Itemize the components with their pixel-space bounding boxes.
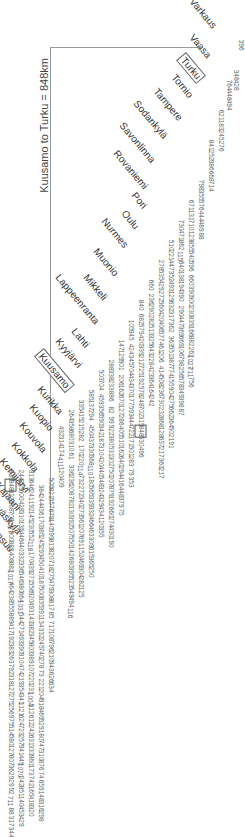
distance-value: 444 — [195, 210, 205, 221]
distance-value: 385 — [35, 525, 45, 536]
distance-value: 174 — [55, 446, 65, 457]
distance-value: 317 — [5, 816, 15, 827]
distance-value: 120 — [95, 516, 105, 527]
distance-value: 145 — [25, 510, 35, 521]
distance-value: 206 — [115, 374, 125, 385]
distance-value: 332 — [35, 627, 45, 638]
chart-title: Kuusamo to Turku = 848km — [38, 58, 50, 193]
distance-value: 134 — [35, 617, 45, 628]
distance-value: 660 — [185, 275, 195, 286]
distance-value: 339 — [135, 344, 145, 355]
distance-value: 362 — [5, 765, 15, 776]
distance-value: 278 — [35, 658, 45, 669]
distance-value: 356 — [95, 404, 105, 415]
distance-column: 2883382338868299922380531302750207879192… — [106, 360, 115, 547]
distance-value: 730 — [155, 396, 165, 407]
distance-value: 130 — [65, 505, 75, 516]
distance-column: 79835557644448988 — [196, 180, 205, 241]
distance-value: 82 — [105, 406, 115, 413]
distance-value: 256 — [175, 366, 185, 377]
distance-column: 621183245276 — [216, 110, 225, 151]
distance-value: 143 — [25, 612, 35, 623]
distance-value: 437 — [85, 434, 95, 445]
distance-value: 624 — [15, 714, 25, 725]
distance-value: 219 — [15, 673, 25, 684]
distance-value: 416 — [115, 476, 125, 487]
distance-value: 173 — [25, 765, 35, 776]
distance-value: 986 — [205, 160, 215, 171]
distance-value: 380 — [105, 435, 115, 446]
distance-value: 256 — [5, 704, 15, 715]
distance-value: 217 — [155, 467, 165, 478]
distance-column: 660236290282513325643228423364164242 — [146, 280, 155, 406]
distance-value: 494 — [223, 100, 233, 111]
distance-value: 634 — [45, 681, 55, 692]
distance-value: 424 — [125, 344, 135, 355]
distance-value: 336 — [15, 561, 25, 572]
distance-value: 92 — [5, 787, 15, 794]
distance-value: 502 — [165, 427, 175, 438]
distance-column: 396 — [236, 40, 245, 50]
distance-value: 820 — [45, 549, 55, 560]
distance-value: 742 — [25, 775, 35, 786]
distance-value: 294 — [85, 410, 95, 421]
distance-value: 530 — [135, 436, 145, 447]
distance-value: 123 — [185, 230, 195, 241]
distance-value: 206 — [155, 351, 165, 362]
distance-value: 352 — [165, 270, 175, 281]
distance-value: 152 — [75, 546, 85, 557]
distance-value: 704 — [125, 364, 135, 375]
distance-value: 170 — [75, 444, 85, 455]
distance-value: 272 — [155, 290, 165, 301]
distance-value: 529 — [35, 719, 45, 730]
distance-value: 747 — [35, 739, 45, 750]
distance-value: 593 — [125, 405, 135, 416]
distance-value: 945 — [125, 330, 135, 341]
distance-value: 245 — [215, 130, 225, 141]
distance-value: 73 — [35, 670, 45, 677]
distance-column: 841252986668714 — [206, 140, 215, 191]
distance-value: 241 — [25, 490, 35, 501]
distance-value: 142 — [65, 546, 75, 557]
distance-value: 756 — [185, 377, 195, 388]
distance-value: 410 — [35, 566, 45, 577]
distance-column: 3354152152821702201147322723402735612076… — [76, 400, 85, 598]
distance-value: 512 — [25, 704, 35, 715]
distance-value: 862 — [175, 240, 185, 251]
distance-value: 817 — [45, 600, 55, 611]
distance-value: 217 — [155, 447, 165, 458]
distance-value: 405 — [115, 425, 125, 436]
distance-value: 272 — [75, 485, 85, 496]
distance-value: 220 — [75, 455, 85, 466]
distance-value: 148 — [35, 790, 45, 801]
distance-value: 276 — [215, 140, 225, 151]
distance-value: 428 — [15, 500, 25, 511]
distance-value: 531 — [105, 445, 115, 456]
distance-value: 85 — [45, 612, 55, 619]
distance-column: 2785354292725604204065774612064145082367… — [156, 260, 165, 478]
distance-value: 283 — [125, 456, 135, 467]
distance-value: 718 — [45, 559, 55, 570]
distance-value: 120 — [55, 466, 65, 477]
distance-value: 75 — [115, 508, 125, 515]
distance-value: 565 — [85, 485, 95, 496]
distance-value: 901 — [115, 360, 125, 371]
distance-value: 900 — [185, 295, 195, 306]
distance-value: 680 — [65, 430, 75, 441]
distance-column: 3136462411921452305521181704392715569204… — [26, 470, 35, 816]
distance-value: 263 — [5, 653, 15, 664]
distance-value: 345 — [125, 354, 135, 365]
distance-value: 340 — [75, 495, 85, 506]
distance-value: 439 — [25, 561, 35, 572]
distance-value: 576 — [195, 200, 205, 211]
distance-value: 192 — [105, 496, 115, 507]
distance-value: 180 — [85, 475, 95, 486]
distance-value: 450 — [35, 556, 45, 567]
distance-value: 355 — [95, 526, 105, 537]
shade-band — [226, 60, 235, 660]
distance-value: 242 — [15, 775, 25, 786]
distance-value: 310 — [95, 445, 105, 456]
distance-value: 290 — [175, 305, 185, 316]
distance-value: 459 — [95, 394, 105, 405]
distance-value: 309 — [85, 536, 95, 547]
